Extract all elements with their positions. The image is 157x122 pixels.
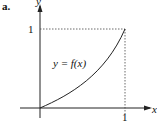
x-axis-label: x bbox=[151, 103, 157, 115]
x-axis-arrow-icon bbox=[144, 106, 152, 111]
y-tick-1: 1 bbox=[28, 23, 34, 35]
y-axis-label: y bbox=[35, 0, 41, 7]
x-tick-1: 1 bbox=[122, 111, 128, 122]
curve-annotation: y = f(x) bbox=[52, 57, 86, 70]
chart: y x 1 1 y = f(x) bbox=[0, 0, 157, 122]
